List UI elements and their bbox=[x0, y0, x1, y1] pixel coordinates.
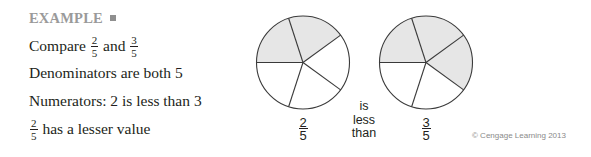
denominators-line: Denominators are both 5 bbox=[29, 64, 183, 82]
compare-line: Compare 2 5 and 3 5 bbox=[29, 36, 139, 59]
fraction-numerator: 3 bbox=[130, 35, 138, 47]
example-heading-label: EXAMPLE bbox=[29, 10, 103, 26]
compare-prefix: Compare bbox=[29, 37, 86, 54]
fraction-two-fifths: 2 5 bbox=[30, 118, 38, 141]
fraction-numerator: 2 bbox=[91, 35, 99, 47]
pie-chart-three-fifths bbox=[378, 13, 474, 113]
compare-connector: and bbox=[103, 37, 125, 54]
conclusion-line: 2 5 has a lesser value bbox=[29, 119, 150, 142]
comparison-word: less bbox=[340, 114, 388, 128]
copyright-notice: © Cengage Learning 2013 bbox=[472, 131, 566, 140]
conclusion-text: has a lesser value bbox=[42, 120, 150, 137]
comparison-word: than bbox=[340, 127, 388, 141]
comparison-word: is bbox=[340, 100, 388, 114]
fraction-denominator: 5 bbox=[130, 47, 138, 58]
example-heading: EXAMPLE bbox=[29, 10, 116, 26]
fraction-denominator: 5 bbox=[30, 130, 38, 141]
comparison-text: is less than bbox=[340, 100, 388, 141]
fraction-three-fifths: 3 5 bbox=[130, 35, 138, 58]
fraction-denominator: 5 bbox=[91, 47, 99, 58]
square-icon bbox=[110, 15, 116, 21]
fraction-denominator: 5 bbox=[293, 129, 313, 141]
pie-chart-two-fifths bbox=[255, 13, 351, 113]
fraction-two-fifths: 2 5 bbox=[91, 35, 99, 58]
fraction-denominator: 5 bbox=[416, 129, 436, 141]
fraction-numerator: 2 bbox=[30, 118, 38, 130]
pie-label-two-fifths: 2 5 bbox=[293, 117, 313, 141]
pie-label-three-fifths: 3 5 bbox=[416, 117, 436, 141]
numerators-line: Numerators: 2 is less than 3 bbox=[29, 92, 202, 110]
